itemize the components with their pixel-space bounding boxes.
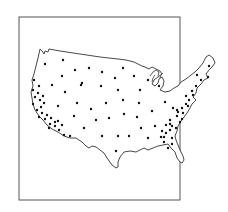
location-dot — [64, 91, 66, 93]
location-dot — [88, 67, 90, 69]
location-dot — [58, 129, 60, 131]
location-dot — [172, 107, 174, 109]
location-dot — [50, 117, 52, 119]
location-dot — [163, 141, 165, 143]
location-dot — [115, 150, 117, 152]
location-dot — [181, 118, 183, 120]
location-dot — [43, 102, 45, 104]
location-dot — [179, 121, 181, 123]
location-dot — [32, 89, 34, 91]
location-dot — [185, 103, 187, 105]
location-dot — [54, 125, 56, 127]
location-dot — [195, 85, 197, 87]
location-dot — [163, 136, 165, 138]
location-dot — [46, 114, 48, 116]
location-dot — [101, 135, 103, 137]
location-dot — [207, 76, 209, 78]
location-dot — [188, 99, 190, 101]
location-dot — [57, 105, 59, 107]
location-dot — [176, 115, 178, 117]
location-dot — [167, 147, 169, 149]
location-dot — [208, 65, 210, 67]
location-dot — [114, 77, 116, 79]
location-dot — [171, 125, 173, 127]
location-dot — [74, 69, 76, 71]
location-dot — [171, 143, 173, 145]
location-dot — [154, 125, 156, 127]
location-dot — [122, 67, 124, 69]
location-dot — [38, 85, 40, 87]
location-dot — [158, 85, 160, 87]
location-dot — [36, 109, 38, 111]
location-dot — [49, 123, 51, 125]
location-dot — [61, 75, 63, 77]
location-dot — [196, 74, 198, 76]
location-dot — [161, 130, 163, 132]
location-dot — [117, 135, 119, 137]
location-dot — [83, 127, 85, 129]
location-dot — [187, 105, 189, 107]
location-dot — [192, 94, 194, 96]
location-dot — [41, 112, 43, 114]
location-dot — [44, 63, 46, 65]
location-dot — [44, 118, 46, 120]
location-dot — [90, 108, 92, 110]
location-dot — [76, 102, 78, 104]
location-dot — [140, 127, 142, 129]
location-dot — [181, 107, 183, 109]
location-dot — [176, 109, 178, 111]
location-dot — [34, 96, 36, 98]
location-dot — [147, 137, 149, 139]
location-dot — [128, 135, 130, 137]
location-dot — [200, 79, 202, 81]
location-dot — [185, 95, 187, 97]
location-dot — [32, 103, 34, 105]
location-dot — [136, 116, 138, 118]
location-dot — [133, 75, 135, 77]
location-dot — [39, 99, 41, 101]
location-dot — [73, 115, 75, 117]
location-dot — [139, 89, 141, 91]
location-dot — [40, 106, 42, 108]
location-dot — [165, 132, 167, 134]
location-dot — [182, 112, 184, 114]
location-dot — [147, 79, 149, 81]
location-dot — [37, 92, 39, 94]
location-dot — [175, 127, 177, 129]
us-point-map — [0, 0, 228, 212]
location-dot — [169, 123, 171, 125]
location-dot — [38, 116, 40, 118]
location-dot — [69, 135, 71, 137]
location-dot — [169, 129, 171, 131]
location-dot — [108, 117, 110, 119]
location-dot — [160, 136, 162, 138]
location-dot — [100, 85, 102, 87]
location-dot — [123, 113, 125, 115]
location-dot — [42, 95, 44, 97]
location-dot — [54, 121, 56, 123]
location-dot — [122, 99, 124, 101]
location-dot — [57, 120, 59, 122]
location-dot — [191, 90, 193, 92]
location-dot — [48, 127, 50, 129]
location-dot — [101, 71, 103, 73]
location-dot — [80, 84, 82, 86]
location-dot — [171, 137, 173, 139]
location-dot — [63, 134, 65, 136]
location-dot — [164, 101, 166, 103]
location-dot — [165, 124, 167, 126]
location-dot — [61, 124, 63, 126]
location-dot — [105, 102, 107, 104]
location-dot — [117, 89, 119, 91]
location-dot — [95, 119, 97, 121]
location-dot — [33, 79, 35, 81]
location-dot — [151, 110, 153, 112]
location-dot — [62, 59, 64, 61]
location-dot — [169, 119, 171, 121]
location-dot — [138, 102, 140, 104]
location-dot — [51, 84, 53, 86]
